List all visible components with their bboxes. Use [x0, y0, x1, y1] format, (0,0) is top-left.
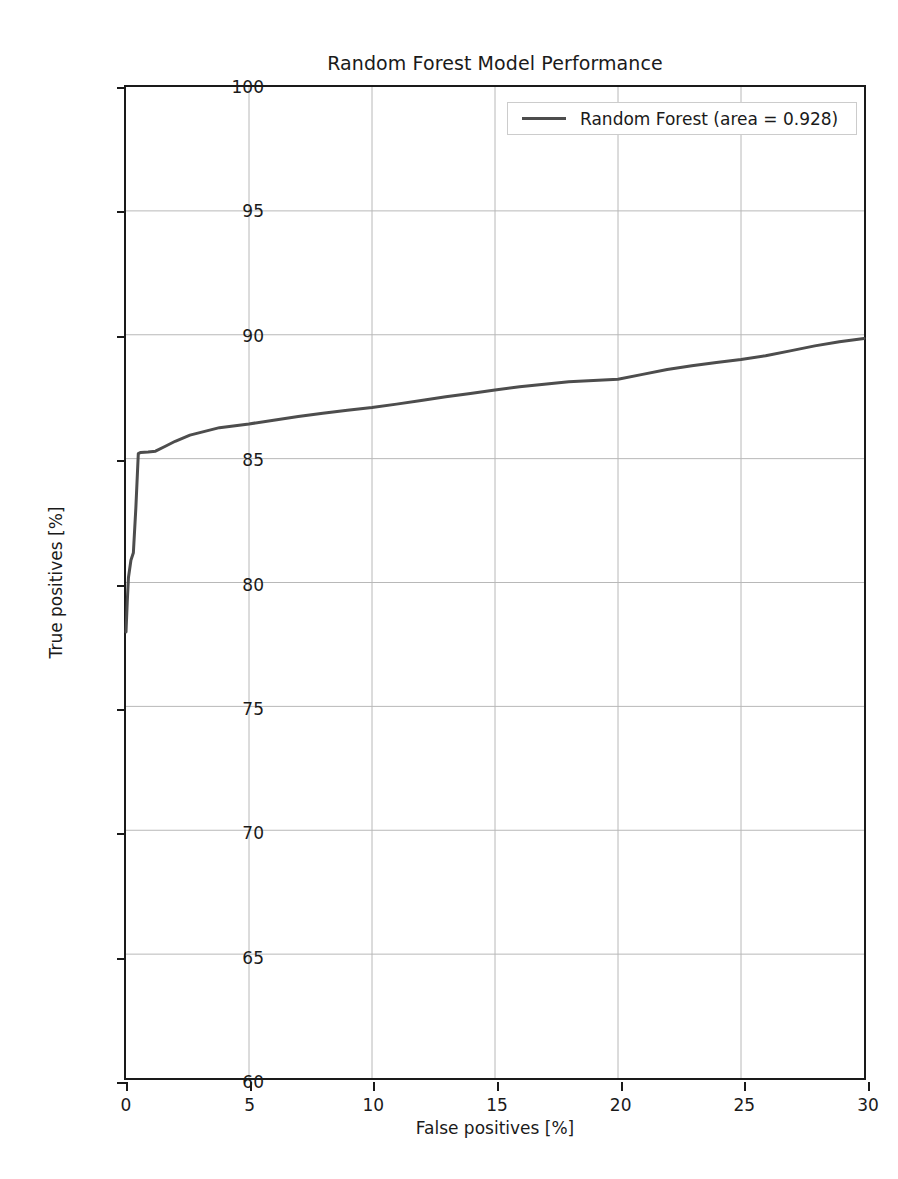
- x-tick-mark: [373, 1082, 375, 1091]
- y-tick-label: 90: [242, 326, 264, 346]
- y-tick-label: 60: [242, 1072, 264, 1092]
- chart-title: Random Forest Model Performance: [124, 52, 866, 74]
- y-tick-label: 95: [242, 201, 264, 221]
- x-tick-mark: [621, 1082, 623, 1091]
- x-tick-label: 5: [244, 1095, 255, 1115]
- roc-curve-layer: [126, 87, 864, 1078]
- figure-canvas: Random Forest Model Performance 60657075…: [0, 0, 898, 1179]
- y-tick-label: 70: [242, 823, 264, 843]
- x-tick-label: 15: [486, 1095, 508, 1115]
- y-tick-mark: [117, 1082, 126, 1084]
- y-tick-label: 100: [232, 77, 264, 97]
- x-tick-mark: [497, 1082, 499, 1091]
- x-tick-label: 30: [857, 1095, 879, 1115]
- y-tick-label: 85: [242, 450, 264, 470]
- y-tick-mark: [117, 211, 126, 213]
- x-axis-label: False positives [%]: [124, 1118, 866, 1138]
- plot-area: 6065707580859095100051015202530 Random F…: [124, 85, 866, 1080]
- y-axis-label: True positives [%]: [44, 85, 68, 1080]
- x-tick-mark: [744, 1082, 746, 1091]
- x-tick-mark: [868, 1082, 870, 1091]
- x-tick-mark: [250, 1082, 252, 1091]
- y-tick-label: 75: [242, 699, 264, 719]
- y-tick-mark: [117, 336, 126, 338]
- y-tick-label: 65: [242, 948, 264, 968]
- y-tick-mark: [117, 585, 126, 587]
- y-tick-label: 80: [242, 575, 264, 595]
- x-tick-label: 20: [610, 1095, 632, 1115]
- y-tick-mark: [117, 709, 126, 711]
- x-tick-label: 25: [734, 1095, 756, 1115]
- legend-entry-label: Random Forest (area = 0.928): [580, 109, 838, 129]
- y-tick-mark: [117, 833, 126, 835]
- roc-curve-line: [126, 338, 864, 632]
- chart-legend[interactable]: Random Forest (area = 0.928): [507, 102, 857, 135]
- x-tick-mark: [126, 1082, 128, 1091]
- x-tick-label: 10: [363, 1095, 385, 1115]
- y-tick-mark: [117, 87, 126, 89]
- y-tick-mark: [117, 460, 126, 462]
- y-tick-mark: [117, 958, 126, 960]
- legend-line-swatch: [522, 117, 566, 120]
- x-tick-label: 0: [121, 1095, 132, 1115]
